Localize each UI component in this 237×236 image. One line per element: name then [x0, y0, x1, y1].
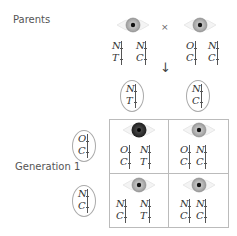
- grid-horizontal-divider: [109, 173, 229, 174]
- offspring2-eye-icon: [182, 121, 216, 139]
- generation1-label: Generation 1: [15, 161, 80, 172]
- parents-label: Parents: [13, 14, 50, 25]
- offspring4-eye-icon: [182, 176, 216, 194]
- cross-symbol: ×: [161, 22, 169, 32]
- parent1-eye-icon: [116, 16, 150, 34]
- down-arrow-icon: ↓: [160, 60, 171, 75]
- offspring3-eye-icon: [122, 176, 156, 194]
- offspring1-eye-icon: [122, 121, 156, 139]
- parent2-eye-icon: [183, 16, 217, 34]
